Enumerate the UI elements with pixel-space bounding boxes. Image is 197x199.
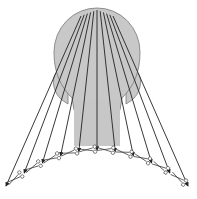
scissors-icon <box>97 145 115 155</box>
scissors-icon <box>115 146 134 158</box>
scissors-icon <box>60 147 79 159</box>
rays <box>6 10 188 186</box>
scissors-icon <box>151 159 171 175</box>
scissors-icon <box>133 151 153 165</box>
scissors-icon <box>5 170 24 187</box>
scissors-icon <box>79 145 97 155</box>
diagram-canvas <box>0 0 197 199</box>
scissors-icon <box>42 151 62 165</box>
scissors-icon <box>169 170 188 187</box>
